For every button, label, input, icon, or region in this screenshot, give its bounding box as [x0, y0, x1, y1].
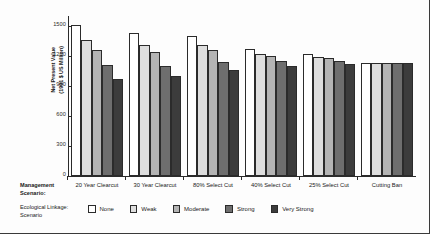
bar[interactable]: [276, 61, 286, 176]
bar[interactable]: [334, 61, 344, 176]
x-axis-tick-mark: [183, 176, 184, 180]
x-axis-tick-mark: [241, 176, 242, 180]
y-axis-title: Net Present Value (1991 $ US Million): [50, 22, 66, 118]
legend-swatch-icon: [130, 205, 138, 213]
x-axis-line: [68, 176, 416, 177]
bar[interactable]: [187, 36, 197, 177]
bar[interactable]: [392, 63, 402, 177]
x-axis-tick-mark: [125, 176, 126, 180]
bar-group: [71, 16, 127, 176]
legend-label: Weak: [141, 206, 156, 212]
bar-group: [361, 16, 417, 176]
bar[interactable]: [81, 40, 91, 176]
y-axis-tick-mark: [68, 176, 72, 177]
management-scenario-row-title: Management Scenario:: [20, 181, 54, 198]
x-axis-category-label: 80% Select Cut: [184, 182, 242, 188]
plot-area: 030060090012001500 Net Present Value (19…: [68, 16, 416, 176]
legend-label: None: [100, 206, 114, 212]
legend: NoneWeakModerateStrongVery Strong: [88, 203, 329, 215]
legend-swatch-icon: [173, 205, 181, 213]
bar[interactable]: [197, 45, 207, 176]
bar[interactable]: [255, 54, 265, 177]
bars-layer: [68, 16, 416, 176]
bar[interactable]: [303, 54, 313, 176]
x-axis-category-label: Cutting Ban: [358, 182, 416, 188]
bar[interactable]: [102, 65, 112, 176]
bar-group: [303, 16, 359, 176]
bar[interactable]: [361, 63, 371, 177]
legend-item[interactable]: Weak: [130, 205, 157, 213]
x-axis-category-label: 30 Year Clearcut: [126, 182, 184, 188]
bar[interactable]: [266, 56, 276, 176]
y-axis-tick-label: 0: [63, 171, 66, 177]
management-scenario-line-2: Scenario:: [20, 189, 54, 197]
legend-swatch-icon: [88, 205, 96, 213]
bar[interactable]: [371, 63, 381, 177]
bar-group: [245, 16, 301, 176]
legend-label: Strong: [237, 206, 255, 212]
legend-item[interactable]: Moderate: [173, 205, 210, 213]
legend-item[interactable]: Very Strong: [271, 205, 314, 213]
x-axis-category-labels: 20 Year Clearcut30 Year Clearcut80% Sele…: [68, 182, 416, 194]
bar[interactable]: [150, 52, 160, 176]
bar[interactable]: [403, 63, 413, 177]
x-axis-tick-mark: [357, 176, 358, 180]
ecological-linkage-row-title: Ecological Linkage: Scenario: [20, 203, 68, 220]
legend-swatch-icon: [271, 205, 279, 213]
legend-item[interactable]: None: [88, 205, 114, 213]
y-axis-tick: 300: [38, 146, 72, 147]
bar[interactable]: [71, 25, 81, 176]
y-axis-tick-label: 300: [56, 141, 66, 147]
x-axis-tick-mark: [299, 176, 300, 180]
y-axis-title-line-1: Net Present Value: [50, 22, 58, 118]
legend-swatch-icon: [225, 205, 233, 213]
legend-label: Very Strong: [282, 206, 313, 212]
bar[interactable]: [229, 70, 239, 176]
bar[interactable]: [382, 63, 392, 177]
bar[interactable]: [287, 66, 297, 176]
y-axis-title-line-2: (1991 $ US Million): [58, 22, 66, 118]
legend-label: Moderate: [184, 206, 209, 212]
bar[interactable]: [208, 50, 218, 176]
bar[interactable]: [160, 66, 170, 176]
ecological-linkage-line-1: Ecological Linkage:: [20, 203, 68, 211]
legend-item[interactable]: Strong: [225, 205, 254, 213]
bar[interactable]: [218, 62, 228, 176]
bar[interactable]: [313, 57, 323, 176]
management-scenario-line-1: Management: [20, 181, 54, 189]
bar-group: [187, 16, 243, 176]
bar-group: [129, 16, 185, 176]
bar[interactable]: [245, 49, 255, 177]
bar[interactable]: [129, 33, 139, 176]
bar[interactable]: [345, 64, 355, 176]
ecological-linkage-line-2: Scenario: [20, 211, 68, 219]
bar[interactable]: [113, 79, 123, 177]
chart-figure: 030060090012001500 Net Present Value (19…: [0, 0, 430, 234]
bar[interactable]: [92, 50, 102, 176]
x-axis-tick-mark: [67, 176, 68, 180]
x-axis-category-label: 25% Select Cut: [300, 182, 358, 188]
x-axis-category-label: 20 Year Clearcut: [68, 182, 126, 188]
x-axis-category-label: 40% Select Cut: [242, 182, 300, 188]
bar[interactable]: [324, 58, 334, 177]
bar[interactable]: [171, 76, 181, 177]
bar[interactable]: [139, 45, 149, 176]
